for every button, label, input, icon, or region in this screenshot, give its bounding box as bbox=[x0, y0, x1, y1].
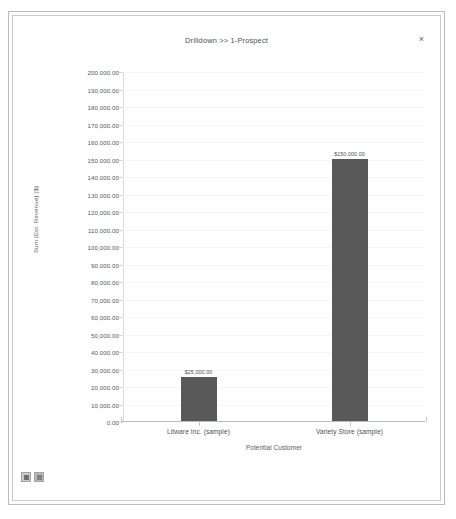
y-axis-tick bbox=[119, 247, 123, 248]
grid-icon bbox=[37, 475, 42, 480]
y-axis-tick bbox=[119, 422, 123, 423]
y-axis-tick-label: 130,000.00 bbox=[59, 191, 119, 198]
y-axis-tick bbox=[119, 160, 123, 161]
y-axis-tick bbox=[119, 72, 123, 73]
gridline bbox=[123, 160, 425, 161]
data-view-button[interactable] bbox=[34, 472, 44, 482]
y-axis-tick-label: 200,000.00 bbox=[59, 69, 119, 76]
y-axis-tick-label: 120,000.00 bbox=[59, 209, 119, 216]
y-axis-tick-label: 50,000.00 bbox=[59, 331, 119, 338]
y-axis-tick bbox=[119, 212, 123, 213]
gridline bbox=[123, 335, 425, 336]
plot-area: $25,000.00$150,000.00 bbox=[123, 72, 425, 422]
y-axis-tick-label: 70,000.00 bbox=[59, 296, 119, 303]
x-axis-tick bbox=[199, 422, 200, 426]
y-axis-tick-labels: 200,000.00190,000.00180,000.00170,000.00… bbox=[59, 72, 119, 422]
y-axis-tick-label: 100,000.00 bbox=[59, 244, 119, 251]
gridline bbox=[123, 370, 425, 371]
y-axis-tick-label: 80,000.00 bbox=[59, 279, 119, 286]
y-axis-tick-label: 0.00 bbox=[59, 419, 119, 426]
y-axis-tick-label: 190,000.00 bbox=[59, 86, 119, 93]
bar[interactable] bbox=[181, 377, 217, 421]
x-axis-category-label[interactable]: Variety Store (sample) bbox=[316, 428, 383, 435]
y-axis-tick bbox=[119, 230, 123, 231]
bar[interactable] bbox=[332, 159, 368, 422]
y-axis-tick-label: 160,000.00 bbox=[59, 139, 119, 146]
y-axis-tick-label: 110,000.00 bbox=[59, 226, 119, 233]
gridline bbox=[123, 230, 425, 231]
gridline bbox=[123, 247, 425, 248]
y-axis-tick-label: 180,000.00 bbox=[59, 104, 119, 111]
chart-toolbar bbox=[21, 472, 44, 482]
x-axis-end-cap bbox=[426, 417, 427, 422]
y-axis-tick bbox=[119, 195, 123, 196]
drilldown-chart-window: Drilldown >> 1-Prospect × Sum (Est. Reve… bbox=[0, 0, 456, 519]
gridline bbox=[123, 90, 425, 91]
y-axis-title: Sum (Est. Revenue) ($) bbox=[32, 180, 39, 260]
bar-value-label: $25,000.00 bbox=[185, 369, 213, 375]
y-axis-tick-label: 140,000.00 bbox=[59, 174, 119, 181]
gridline bbox=[123, 317, 425, 318]
gridline bbox=[123, 300, 425, 301]
y-axis-tick-label: 60,000.00 bbox=[59, 314, 119, 321]
x-axis-line bbox=[121, 421, 425, 422]
y-axis-tick-label: 30,000.00 bbox=[59, 366, 119, 373]
y-axis-tick bbox=[119, 90, 123, 91]
y-axis-tick bbox=[119, 352, 123, 353]
x-axis-title: Potential Customer bbox=[123, 444, 425, 451]
x-axis-category-label[interactable]: Litware Inc. (sample) bbox=[167, 428, 230, 435]
y-axis-tick bbox=[119, 300, 123, 301]
chart-canvas: Sum (Est. Revenue) ($) 200,000.00190,000… bbox=[13, 42, 440, 472]
window-outer-frame: Drilldown >> 1-Prospect × Sum (Est. Reve… bbox=[8, 11, 445, 505]
gridline bbox=[123, 195, 425, 196]
y-axis-tick bbox=[119, 142, 123, 143]
gridline bbox=[123, 125, 425, 126]
y-axis-tick bbox=[119, 265, 123, 266]
y-axis-tick-label: 40,000.00 bbox=[59, 349, 119, 356]
y-axis-tick-label: 170,000.00 bbox=[59, 121, 119, 128]
y-axis-tick bbox=[119, 335, 123, 336]
gridline bbox=[123, 387, 425, 388]
gridline bbox=[123, 405, 425, 406]
dialog-header: Drilldown >> 1-Prospect × bbox=[13, 16, 440, 42]
x-axis-start-cap bbox=[121, 417, 122, 422]
gridline bbox=[123, 177, 425, 178]
gridline bbox=[123, 212, 425, 213]
y-axis-tick bbox=[119, 387, 123, 388]
y-axis-tick bbox=[119, 317, 123, 318]
chart-view-button[interactable] bbox=[21, 472, 31, 482]
bar-value-label: $150,000.00 bbox=[334, 151, 365, 157]
chart-icon bbox=[24, 475, 29, 480]
y-axis-tick-label: 90,000.00 bbox=[59, 261, 119, 268]
window-inner-frame: Drilldown >> 1-Prospect × Sum (Est. Reve… bbox=[12, 15, 441, 501]
x-axis-tick bbox=[350, 422, 351, 426]
y-axis-tick bbox=[119, 370, 123, 371]
y-axis-tick-label: 20,000.00 bbox=[59, 384, 119, 391]
y-axis-tick bbox=[119, 107, 123, 108]
y-axis-tick bbox=[119, 405, 123, 406]
gridline bbox=[123, 282, 425, 283]
gridline bbox=[123, 352, 425, 353]
y-axis-tick bbox=[119, 177, 123, 178]
y-axis-tick bbox=[119, 282, 123, 283]
gridline bbox=[123, 265, 425, 266]
gridline bbox=[123, 107, 425, 108]
y-axis-tick-label: 150,000.00 bbox=[59, 156, 119, 163]
y-axis-tick-label: 10,000.00 bbox=[59, 401, 119, 408]
gridline bbox=[123, 142, 425, 143]
gridline bbox=[123, 72, 425, 73]
y-axis-tick bbox=[119, 125, 123, 126]
